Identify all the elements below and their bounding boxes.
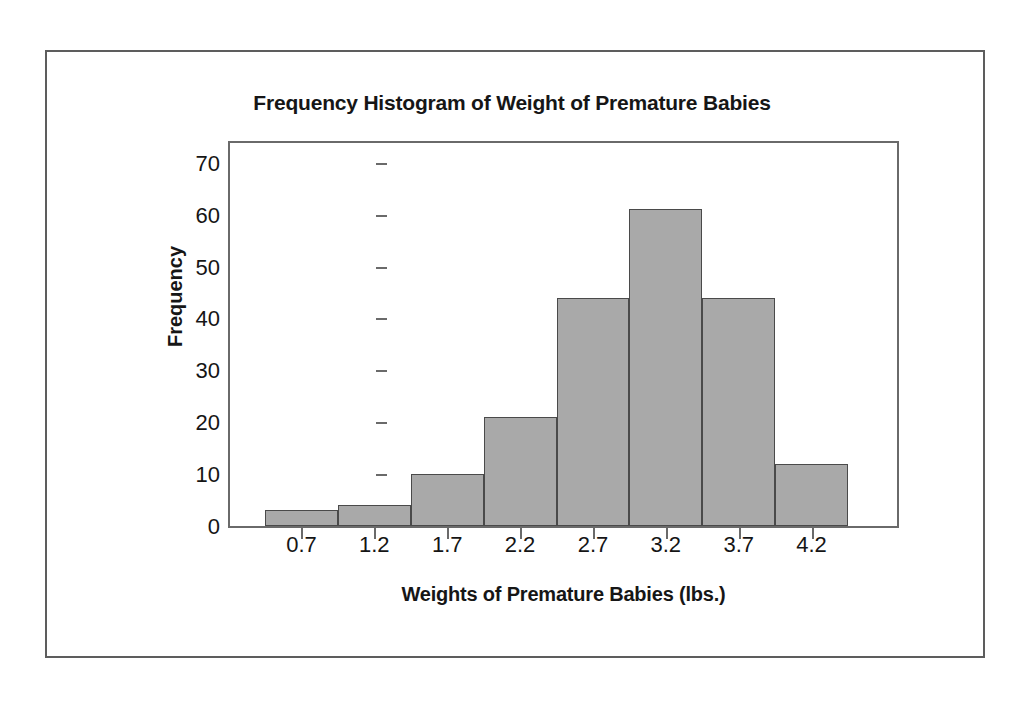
x-axis-tick-label: 2.7 — [553, 534, 633, 556]
x-axis-tick-label: 1.2 — [334, 534, 414, 556]
x-axis-title: Weights of Premature Babies (lbs.) — [228, 583, 899, 606]
x-axis-tick-label: 0.7 — [261, 534, 341, 556]
figure-page: Frequency Histogram of Weight of Prematu… — [0, 0, 1024, 701]
x-axis-tick-label: 2.2 — [480, 534, 560, 556]
x-axis-tick-label: 1.7 — [407, 534, 487, 556]
x-axis-tick-label: 4.2 — [772, 534, 852, 556]
y-axis-title: Frequency — [164, 217, 187, 377]
x-axis-tick-label: 3.7 — [699, 534, 779, 556]
x-axis-tick-label: 3.2 — [626, 534, 706, 556]
